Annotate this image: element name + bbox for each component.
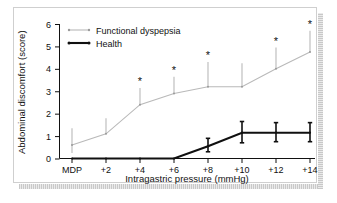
data-point bbox=[173, 92, 175, 94]
y-axis-title: Abdominal discomfort (score) bbox=[16, 30, 27, 154]
y-axis-ticks bbox=[55, 25, 60, 160]
y-tick-label: 6 bbox=[46, 20, 51, 30]
chart-legend: Functional dyspepsiaHealth bbox=[68, 26, 181, 49]
data-point bbox=[241, 132, 243, 134]
series-functional-dyspepsia bbox=[71, 31, 311, 153]
y-tick-label: 3 bbox=[46, 87, 51, 97]
significance-marker: * bbox=[206, 49, 211, 61]
y-tick-label: 0 bbox=[46, 154, 51, 164]
y-axis-tick-labels: 0123456 bbox=[46, 20, 51, 165]
legend-marker bbox=[88, 42, 91, 45]
data-point bbox=[309, 132, 311, 134]
x-tick-label: +14 bbox=[302, 165, 317, 175]
legend-item-health: Health bbox=[68, 39, 123, 49]
y-tick-label: 2 bbox=[46, 109, 51, 119]
x-tick-label: +12 bbox=[268, 165, 283, 175]
data-point bbox=[207, 145, 209, 147]
x-tick-label: +2 bbox=[101, 165, 111, 175]
chart-plot: 0123456 Abdominal discomfort (score) MDP… bbox=[0, 0, 337, 203]
series-line bbox=[72, 52, 310, 145]
x-axis: MDP+2+4+6+8+10+12+14 Intragastric pressu… bbox=[60, 159, 318, 185]
significance-marker: * bbox=[274, 35, 279, 47]
data-point bbox=[139, 157, 141, 159]
data-point bbox=[139, 104, 141, 106]
data-point bbox=[275, 132, 277, 134]
data-point bbox=[241, 86, 243, 88]
legend-label: Health bbox=[96, 39, 122, 49]
data-point bbox=[309, 51, 311, 53]
y-axis: 0123456 Abdominal discomfort (score) bbox=[16, 20, 60, 165]
y-tick-label: 4 bbox=[46, 64, 51, 74]
data-series-layer bbox=[71, 31, 312, 160]
significance-marker: * bbox=[138, 75, 143, 87]
significance-marker: * bbox=[308, 18, 313, 30]
legend-marker bbox=[88, 29, 90, 31]
data-point bbox=[207, 86, 209, 88]
x-tick-label: MDP bbox=[62, 165, 82, 175]
data-point bbox=[275, 68, 277, 70]
data-point bbox=[173, 157, 175, 159]
legend-item-functional-dyspepsia: Functional dyspepsia bbox=[68, 26, 181, 36]
figure-container: 0123456 Abdominal discomfort (score) MDP… bbox=[0, 0, 337, 203]
data-point bbox=[71, 144, 73, 146]
legend-marker bbox=[68, 29, 70, 31]
data-point bbox=[71, 157, 73, 159]
y-tick-label: 5 bbox=[46, 42, 51, 52]
x-axis-title: Intragastric pressure (mmHg) bbox=[125, 173, 249, 184]
data-point bbox=[105, 157, 107, 159]
data-point bbox=[105, 133, 107, 135]
legend-marker bbox=[68, 42, 71, 45]
legend-label: Functional dyspepsia bbox=[96, 26, 181, 36]
significance-marker: * bbox=[172, 64, 177, 76]
series-health bbox=[71, 122, 312, 160]
series-line bbox=[72, 133, 310, 159]
y-tick-label: 1 bbox=[46, 132, 51, 142]
